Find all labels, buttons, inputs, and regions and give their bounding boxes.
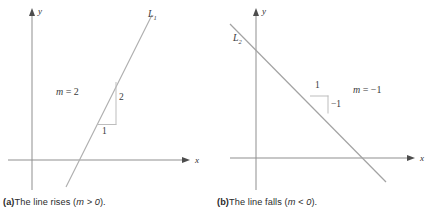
caption-a-text-before: The line rises ( — [15, 197, 77, 207]
panel-a-rising-line: y x L1 m = 2 2 1 (a)The line rises (m > … — [0, 0, 215, 216]
caption-a-math: m > 0 — [76, 197, 100, 207]
caption-a: (a)The line rises (m > 0). — [3, 196, 213, 208]
line-label-l2: L2 — [233, 33, 242, 46]
caption-b-text-before: The line falls ( — [229, 197, 288, 207]
line-label-l1: L1 — [148, 9, 157, 22]
y-axis-b — [253, 8, 259, 190]
line-label-l1-subscript: 1 — [154, 14, 157, 21]
caption-b: (b)The line falls (m < 0). — [217, 196, 427, 208]
x-axis-a — [8, 157, 190, 163]
caption-b-math: m < 0 — [288, 197, 312, 207]
line-l1 — [66, 15, 152, 187]
x-axis-b — [230, 155, 415, 161]
rise-label-a: 2 — [119, 93, 124, 103]
slope-label-b: m = −1 — [353, 85, 382, 95]
y-axis-a — [29, 8, 35, 190]
figure-root: y x L1 m = 2 2 1 (a)The line rises (m > … — [0, 0, 429, 216]
panel-a-graph — [0, 0, 215, 195]
slope-label-a-value: = 2 — [63, 86, 79, 97]
x-axis-label-a: x — [195, 156, 199, 165]
run-label-b: 1 — [315, 81, 320, 91]
y-axis-label-b: y — [262, 7, 266, 16]
slope-label-a: m = 2 — [56, 87, 79, 97]
run-label-a: 1 — [102, 127, 107, 137]
y-axis-label-a: y — [38, 7, 42, 16]
slope-triangle-b — [310, 96, 329, 114]
slope-label-b-value: = −1 — [360, 84, 381, 95]
rise-label-b: −1 — [331, 100, 341, 110]
caption-b-label: (b) — [217, 197, 229, 207]
panel-b-falling-line: y x L2 m = −1 1 −1 (b)The line falls (m … — [214, 0, 429, 216]
line-label-l2-subscript: 2 — [239, 38, 242, 45]
caption-a-text-after: ). — [100, 197, 106, 207]
x-axis-label-b: x — [420, 154, 424, 163]
caption-b-text-after: ). — [311, 197, 317, 207]
panel-b-graph — [214, 0, 429, 195]
caption-a-label: (a) — [3, 197, 15, 207]
